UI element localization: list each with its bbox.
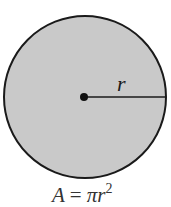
- center-point: [80, 93, 88, 101]
- circle-area-diagram: r A=πr2: [0, 0, 171, 207]
- formula-area-symbol: A: [50, 183, 65, 207]
- formula-exponent: 2: [105, 181, 112, 196]
- radius-label: r: [117, 71, 126, 96]
- area-formula: A=πr2: [50, 181, 112, 207]
- formula-pi: π: [87, 183, 98, 207]
- formula-equals: =: [70, 183, 82, 207]
